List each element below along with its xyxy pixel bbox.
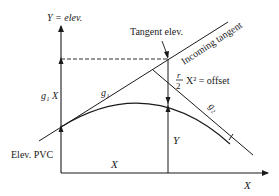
offset-fraction-denominator: 2 [176, 81, 181, 91]
offset-label: X² = offset [186, 75, 230, 86]
g2-label: g₂ [207, 100, 221, 114]
offset-fraction-numerator: r [177, 70, 181, 80]
tangent-elev-label: Tangent elev. [130, 26, 183, 37]
vertical-curve-diagram: Y = elev. Tangent elev. Incoming tangent… [0, 0, 279, 196]
y-axis-label: Y = elev. [47, 12, 82, 23]
offset-arrow-down-icon [166, 97, 171, 104]
x-axis-end-label: X [243, 179, 252, 191]
incoming-tangent-label: Incoming tangent [179, 19, 244, 67]
tangent-elev-pointer-arrowhead-icon [164, 51, 169, 59]
y-vertical-label: Y [173, 134, 181, 146]
elev-pvc-label: Elev. PVC [11, 149, 53, 160]
g1-label: g₁ [101, 87, 109, 98]
g1x-arrowhead-top-icon [59, 57, 64, 64]
x-bottom-label: X [110, 158, 119, 170]
g1x-label: g₁ X [41, 90, 59, 101]
vertical-curve [61, 103, 230, 144]
